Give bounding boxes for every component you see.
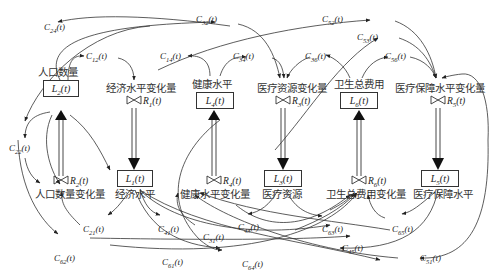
coef-C63: C63(t) [322,224,343,238]
coef-C31: C31(t) [203,232,224,246]
flow-pipe-R3-L3 [281,108,285,158]
coef-arg: (t) [209,14,218,24]
stock-L4: L4(t) [196,92,234,109]
coef-C65: C65(t) [392,224,413,238]
rate-arg: (t) [456,96,465,106]
coef-arg: (t) [251,222,260,232]
coef-C56: C56(t) [385,51,406,65]
stock-arg: (t) [359,95,368,106]
stock-label-L1: 经济水平 [115,188,155,200]
rate-R1: R1(t) [143,96,161,110]
coef-arg: (t) [433,253,442,263]
stock-arg: (t) [283,173,292,184]
rate-R6: R6(t) [368,176,386,190]
stock-label-L4: 健康水平 [192,78,232,90]
coef-C36: C36(t) [305,51,326,65]
rate-arg: (t) [152,96,161,106]
coef-arg: (t) [57,22,66,32]
stock-arg: (t) [135,173,144,184]
flow-pipe-R5-L5 [436,108,440,158]
coef-arg: (t) [370,32,379,42]
rate-R2: R2(t) [70,176,88,190]
coef-C32: C32(t) [196,14,217,28]
stock-L1: L1(t) [117,170,153,187]
flow-pipe-R1-L1 [132,108,136,158]
coef-arg: (t) [355,243,364,253]
coef-arg: (t) [335,14,344,24]
flow-pipe-R4-L4 [212,120,216,176]
coef-arg: (t) [255,259,264,269]
flow-pipe-R6-L6 [357,120,361,176]
coef-arg: (t) [67,253,76,263]
stock-L6: L6(t) [340,92,378,109]
coef-C34: C34(t) [233,51,254,65]
coef-C14: C14(t) [160,51,181,65]
rate-label-R6: 卫生总费用变化量 [326,188,406,200]
coef-C45: C45(t) [342,243,363,257]
coef-arg: (t) [246,51,255,61]
coef-C21: C21(t) [83,224,104,238]
rate-arg: (t) [377,176,386,186]
coef-C52: C52(t) [322,14,343,28]
rate-arg: (t) [301,96,310,106]
rate-R4: R4(t) [223,176,241,190]
coef-C61: C61(t) [162,257,183,271]
coef-arg: (t) [173,51,182,61]
stock-label-L5: 医疗保障水平 [413,188,473,200]
stock-L5: L5(t) [421,170,459,187]
rate-label-R1: 经济水平变化量 [106,82,176,94]
coef-arg: (t) [99,51,108,61]
coef-arg: (t) [22,143,31,153]
coef-C62: C62(t) [54,253,75,267]
coef-arg: (t) [318,51,327,61]
coef-arg: (t) [398,51,407,61]
coef-arg: (t) [216,232,225,242]
coef-arg: (t) [175,257,184,267]
coef-C53: C53(t) [357,32,378,46]
rate-R3: R3(t) [292,96,310,110]
coef-C22: C22(t) [9,143,30,157]
stock-arg: (t) [440,173,449,184]
stock-L3: L3(t) [264,170,302,187]
rate-label-R5: 医疗保障水平变化量 [395,82,485,94]
coef-arg: (t) [171,224,180,234]
coef-C51: C51(t) [420,253,441,267]
flow-pipe-R2-L2 [59,120,63,176]
coef-C12: C12(t) [86,51,107,65]
rate-R5: R5(t) [447,96,465,110]
rate-arg: (t) [232,176,241,186]
coef-C24: C24(t) [44,22,65,36]
stock-arg: (t) [215,95,224,106]
coef-arg: (t) [335,224,344,234]
stock-label-L3: 医疗资源 [262,188,302,200]
stock-L2: L2(t) [43,80,79,97]
coef-C43: C43(t) [238,222,259,236]
stock-label-L2: 人口数量 [38,66,78,78]
coef-arg: (t) [405,224,414,234]
stock-arg: (t) [61,83,70,94]
rate-arg: (t) [79,176,88,186]
stock-label-L6: 卫生总费用 [334,78,384,90]
rate-label-R3: 医疗资源变化量 [257,82,327,94]
coef-C64: C64(t) [242,259,263,273]
coef-C41: C41(t) [158,224,179,238]
coef-arg: (t) [96,224,105,234]
